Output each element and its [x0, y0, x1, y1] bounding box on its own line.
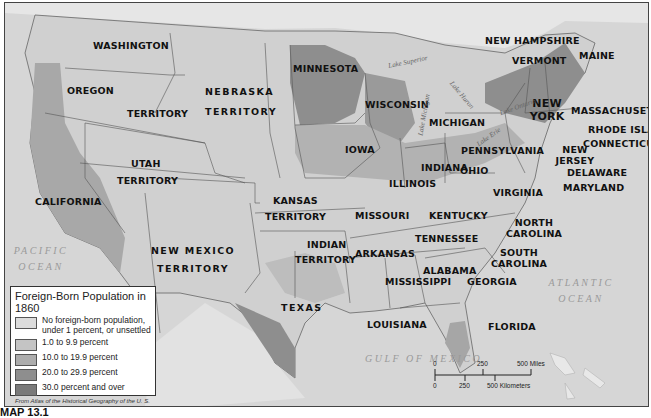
label-kentucky: KENTUCKY	[429, 211, 488, 222]
scale-miles-0: 0	[433, 360, 437, 367]
label-washington: WASHINGTON	[93, 41, 169, 52]
label-indian-territory: TERRITORY	[295, 255, 356, 266]
label-indian: INDIAN	[307, 240, 346, 251]
label-territory-wa: TERRITORY	[127, 109, 188, 120]
label-nebraska: NEBRASKA	[205, 87, 274, 98]
scale-miles-250: 250	[477, 360, 488, 367]
legend-swatch	[15, 339, 37, 351]
label-florida: FLORIDA	[488, 322, 536, 333]
label-vermont: VERMONT	[512, 56, 567, 67]
label-arkansas: ARKANSAS	[355, 249, 415, 260]
scale-km-500: 500 Kilometers	[487, 382, 530, 389]
label-new-mexico-territory: TERRITORY	[157, 264, 229, 275]
label-massachusetts: MASSACHUSETTS	[571, 106, 649, 117]
map-caption: MAP 13.1	[0, 406, 49, 418]
foreign-born-population-map: WASHINGTON OREGON TERRITORY NEBRASKA TER…	[4, 2, 649, 407]
legend-item: No foreign-born population, under 1 perc…	[15, 316, 151, 336]
label-nebraska-territory: TERRITORY	[205, 107, 277, 118]
legend-label: No foreign-born population, under 1 perc…	[42, 316, 151, 336]
scale-bar: 0 250 500 Miles 0 250 500 Kilometers	[433, 363, 543, 393]
scale-km-0: 0	[433, 382, 437, 389]
label-pacific-ocean: PACIFIC OCEAN	[11, 243, 71, 275]
label-virginia: VIRGINIA	[493, 188, 543, 199]
label-iowa: IOWA	[345, 145, 375, 156]
label-louisiana: LOUISIANA	[367, 320, 427, 331]
label-oregon: OREGON	[67, 86, 114, 97]
label-maryland: MARYLAND	[563, 183, 624, 194]
label-pennsylvania: PENNSYLVANIA	[461, 146, 544, 157]
legend-item: 10.0 to 19.9 percent	[15, 353, 151, 366]
label-minnesota: MINNESOTA	[293, 64, 358, 75]
label-ohio: OHIO	[460, 166, 488, 177]
label-new-mexico: NEW MEXICO	[151, 246, 235, 257]
label-new-hampshire: NEW HAMPSHIRE	[485, 36, 580, 47]
legend-label: 30.0 percent and over	[42, 383, 125, 393]
label-north-carolina: NORTH CAROLINA	[504, 218, 564, 240]
label-atlantic-ocean: ATLANTIC OCEAN	[541, 275, 621, 307]
label-rhode-island: RHODE ISLAND	[588, 125, 649, 136]
legend-swatch	[15, 354, 37, 366]
label-michigan: MICHIGAN	[429, 118, 485, 129]
legend-label: 10.0 to 19.9 percent	[42, 353, 118, 363]
scale-km-250: 250	[459, 382, 470, 389]
label-california: CALIFORNIA	[35, 197, 102, 208]
legend-swatch	[15, 369, 37, 381]
label-south-carolina: SOUTH CAROLINA	[489, 248, 549, 270]
legend-item: 1.0 to 9.9 percent	[15, 338, 151, 351]
label-mississippi: MISSISSIPPI	[385, 277, 451, 288]
label-kansas: KANSAS	[273, 196, 318, 207]
legend-title: Foreign-Born Population in 1860	[15, 290, 151, 314]
label-georgia: GEORGIA	[467, 277, 517, 288]
legend-label: 20.0 to 29.9 percent	[42, 368, 118, 378]
label-delaware: DELAWARE	[567, 168, 627, 179]
label-texas: TEXAS	[281, 303, 323, 314]
legend-source: From Atlas of the Historical Geography o…	[15, 398, 151, 405]
scale-miles-500: 500 Miles	[517, 360, 545, 367]
legend-item: 30.0 percent and over	[15, 383, 151, 396]
legend-item: 20.0 to 29.9 percent	[15, 368, 151, 381]
label-illinois: ILLINOIS	[389, 179, 436, 190]
label-maine: MAINE	[579, 51, 615, 62]
legend-swatch	[15, 317, 37, 329]
label-utah: UTAH	[131, 159, 161, 170]
legend-label: 1.0 to 9.9 percent	[42, 338, 108, 348]
label-connecticut: CONNECTICUT	[583, 139, 649, 150]
label-missouri: MISSOURI	[355, 211, 410, 222]
label-utah-territory: TERRITORY	[117, 176, 178, 187]
label-tennessee: TENNESSEE	[415, 234, 478, 245]
map-legend: Foreign-Born Population in 1860 No forei…	[10, 286, 156, 396]
label-kansas-territory: TERRITORY	[265, 212, 326, 223]
legend-swatch	[15, 384, 37, 396]
label-wisconsin: WISCONSIN	[365, 100, 429, 111]
